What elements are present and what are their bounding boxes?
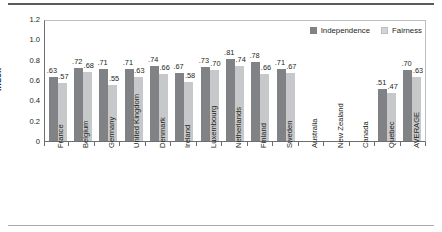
x-axis-labels: FranceBelgiumGermanyUnited KingdomDenmar… xyxy=(44,148,426,210)
bar-value-label: .70 xyxy=(210,60,220,67)
chart-legend: IndependenceFairness xyxy=(310,26,422,35)
x-axis-label-cell: Australia xyxy=(299,148,324,210)
bar-value-label: .51 xyxy=(376,79,386,86)
x-axis-category-label: Canada xyxy=(362,121,370,148)
bar-value-label: .70 xyxy=(401,60,411,67)
x-axis-label-cell: Netherlands xyxy=(222,148,247,210)
bar-group: .63.57 xyxy=(45,21,70,141)
bar-value-label: .63 xyxy=(47,67,57,74)
x-axis-label-cell: Sweden xyxy=(273,148,298,210)
bar-value-label: .55 xyxy=(109,75,119,82)
x-axis-category-label: AVERAGE xyxy=(413,112,421,148)
legend-label: Independence xyxy=(321,26,370,35)
bar-value-label: .67 xyxy=(286,63,296,70)
bar-value-label: .68 xyxy=(84,62,94,69)
x-axis-category-label: New Zealand xyxy=(337,103,345,148)
x-axis-category-label: Ireland xyxy=(184,125,192,148)
bar-value-label: .66 xyxy=(160,64,170,71)
bar: .70 xyxy=(403,70,412,141)
bar-value-label: .67 xyxy=(173,63,183,70)
page-rule-bottom xyxy=(8,225,434,226)
legend-swatch-fairness xyxy=(381,27,388,34)
bar-value-label: .66 xyxy=(261,64,271,71)
y-axis-tick-label: 0.2 xyxy=(18,118,40,126)
x-axis-label-cell: France xyxy=(44,148,69,210)
x-axis-category-label: Australia xyxy=(311,118,319,148)
x-axis-category-label: Germany xyxy=(108,117,116,148)
bar: .51 xyxy=(378,89,387,141)
x-axis-category-label: Belgium xyxy=(82,121,90,148)
bar-value-label: .71 xyxy=(97,59,107,66)
bar-value-label: .58 xyxy=(185,72,195,79)
x-axis-label-cell: Quebec xyxy=(375,148,400,210)
bar-value-label: .73 xyxy=(199,57,209,64)
page-rule-top xyxy=(8,3,434,5)
bar-chart-figure: Index 1.21.00.80.60.40.20 .63.57.72.68.7… xyxy=(8,12,434,210)
y-axis-tick-label: 0.8 xyxy=(18,57,40,65)
x-axis-label-cell: Denmark xyxy=(146,148,171,210)
y-axis-tick-label: 0.6 xyxy=(18,77,40,85)
x-axis-label-cell: Germany xyxy=(95,148,120,210)
bar-value-label: .63 xyxy=(413,67,423,74)
x-axis-category-label: Quebec xyxy=(388,121,396,148)
x-axis-category-label: Sweden xyxy=(286,121,294,148)
y-axis-tick-label: 0.4 xyxy=(18,98,40,106)
bar-value-label: .57 xyxy=(58,73,68,80)
bar-value-label: .78 xyxy=(249,52,259,59)
y-axis-tick-label: 1.0 xyxy=(18,37,40,45)
x-axis-category-label: United Kingdom xyxy=(133,94,141,148)
legend-swatch-independence xyxy=(310,27,317,34)
y-axis-tick-label: 0 xyxy=(18,138,40,146)
x-axis-label-cell: Belgium xyxy=(69,148,94,210)
bar-value-label: .72 xyxy=(72,58,82,65)
bar-group: .67.58 xyxy=(172,21,197,141)
y-axis-tick-label: 1.2 xyxy=(18,16,40,24)
x-axis-category-label: Finland xyxy=(260,123,268,148)
x-axis-label-cell: Ireland xyxy=(171,148,196,210)
x-axis-category-label: Denmark xyxy=(159,117,167,148)
legend-item: Independence xyxy=(310,26,370,35)
bar-value-label: .74 xyxy=(148,56,158,63)
legend-item: Fairness xyxy=(381,26,422,35)
legend-label: Fairness xyxy=(392,26,422,35)
bar-value-label: .71 xyxy=(123,59,133,66)
y-axis-title: Index xyxy=(0,77,3,91)
x-axis-label-cell: Finland xyxy=(248,148,273,210)
x-axis-label-cell: United Kingdom xyxy=(120,148,145,210)
x-axis-category-label: Netherlands xyxy=(235,107,243,148)
bar-value-label: .63 xyxy=(134,67,144,74)
x-axis-label-cell: AVERAGE xyxy=(401,148,426,210)
bar-value-label: .47 xyxy=(388,83,398,90)
x-axis-category-label: Luxembourg xyxy=(210,106,218,148)
bar-value-label: .71 xyxy=(275,59,285,66)
x-axis-label-cell: Luxembourg xyxy=(197,148,222,210)
x-axis-category-label: France xyxy=(57,124,65,148)
bar-value-label: .74 xyxy=(236,56,246,63)
y-axis: 1.21.00.80.60.40.20 xyxy=(18,20,40,142)
x-axis-label-cell: Canada xyxy=(350,148,375,210)
bar-value-label: .81 xyxy=(224,49,234,56)
x-axis-label-cell: New Zealand xyxy=(324,148,349,210)
